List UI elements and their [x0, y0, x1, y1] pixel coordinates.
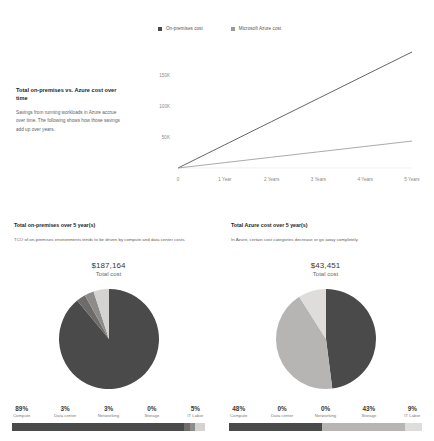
- legend-item-on-premises[interactable]: On-premises cost: [158, 26, 203, 31]
- on-premises-total-block: $187,164 Total cost: [14, 261, 203, 279]
- legend-label-azure: Microsoft Azure cost: [239, 26, 281, 31]
- azure-total-caption: Total cost: [231, 271, 420, 279]
- pie-slice[interactable]: [326, 289, 376, 389]
- category-percent: 9%: [391, 405, 434, 413]
- category-legend-item[interactable]: 0%Networking: [304, 405, 347, 419]
- azure-total-block: $43,451 Total cost: [231, 261, 420, 279]
- category-name: Storage: [130, 413, 173, 419]
- category-legend-item[interactable]: 43%Storage: [347, 405, 390, 419]
- line-series: [178, 141, 412, 168]
- category-name: Storage: [347, 413, 390, 419]
- azure-panel-title: Total Azure cost over 5 year(s): [231, 222, 420, 229]
- on-premises-pie-chart: [57, 287, 161, 391]
- x-axis-tick-label: 0: [177, 177, 180, 182]
- azure-category-bar: [229, 423, 422, 431]
- legend-swatch-icon: [158, 27, 162, 31]
- on-premises-category-legend: 89%Compute3%Data center3%Networking0%Sto…: [0, 405, 217, 419]
- x-axis-tick-label: 2 Years: [264, 177, 280, 182]
- category-percent: 43%: [347, 405, 390, 413]
- on-premises-panel: Total on-premises over 5 year(s) TCO of …: [0, 212, 217, 441]
- y-axis-tick-label: 100K: [159, 104, 171, 109]
- x-axis-tick-label: 5 Years: [404, 177, 420, 182]
- category-percent: 0%: [260, 405, 303, 413]
- line-chart-heading: Total on-premises vs. Azure cost over ti…: [16, 86, 120, 102]
- on-premises-pie-holder: [14, 287, 203, 391]
- category-name: Compute: [0, 413, 43, 419]
- x-axis-tick-label: 3 Years: [311, 177, 327, 182]
- category-name: Networking: [87, 413, 130, 419]
- category-bar-segment[interactable]: [195, 423, 205, 431]
- category-name: IT Labor: [391, 413, 434, 419]
- category-name: Data center: [43, 413, 86, 419]
- category-legend-item[interactable]: 3%Data center: [43, 405, 86, 419]
- category-name: IT Labor: [174, 413, 217, 419]
- legend-label-on-premises: On-premises cost: [166, 26, 203, 31]
- line-chart-plot: 50K100K150K01 Year2 Years3 Years4 Years5…: [130, 40, 420, 192]
- category-name: Networking: [304, 413, 347, 419]
- azure-total-amount: $43,451: [231, 261, 420, 271]
- category-bar-segment[interactable]: [12, 423, 184, 431]
- category-legend-item[interactable]: 0%Storage: [130, 405, 173, 419]
- on-premises-panel-title: Total on-premises over 5 year(s): [14, 222, 203, 229]
- x-axis-tick-label: 4 Years: [358, 177, 374, 182]
- legend-swatch-icon: [231, 27, 235, 31]
- category-legend-item[interactable]: 9%IT Labor: [391, 405, 434, 419]
- category-legend-item[interactable]: 89%Compute: [0, 405, 43, 419]
- category-bar-segment[interactable]: [322, 423, 405, 431]
- y-axis-tick-label: 50K: [162, 135, 171, 140]
- category-bar-segment[interactable]: [405, 423, 422, 431]
- line-chart-svg: 50K100K150K01 Year2 Years3 Years4 Years5…: [130, 40, 420, 192]
- category-legend-item[interactable]: 5%IT Labor: [174, 405, 217, 419]
- on-premises-category-bar: [12, 423, 205, 431]
- category-legend-item[interactable]: 3%Networking: [87, 405, 130, 419]
- line-chart-body-text: Savings from running workloads in Azure …: [16, 109, 120, 134]
- line-chart-section: On-premises cost Microsoft Azure cost To…: [0, 0, 434, 212]
- category-percent: 0%: [130, 405, 173, 413]
- category-percent: 3%: [43, 405, 86, 413]
- category-percent: 5%: [174, 405, 217, 413]
- category-percent: 89%: [0, 405, 43, 413]
- category-percent: 0%: [304, 405, 347, 413]
- on-premises-total-caption: Total cost: [14, 271, 203, 279]
- line-chart-legend: On-premises cost Microsoft Azure cost: [158, 26, 281, 31]
- category-legend-item[interactable]: 48%Compute: [217, 405, 260, 419]
- x-axis-tick-label: 1 Year: [218, 177, 231, 182]
- on-premises-total-amount: $187,164: [14, 261, 203, 271]
- on-premises-panel-subtitle: TCO of on-premises environments tends to…: [14, 236, 203, 243]
- category-percent: 48%: [217, 405, 260, 413]
- azure-pie-chart: [274, 287, 378, 391]
- azure-pie-holder: [231, 287, 420, 391]
- azure-category-legend: 48%Compute0%Data center0%Networking43%St…: [217, 405, 434, 419]
- azure-panel: Total Azure cost over 5 year(s) In Azure…: [217, 212, 434, 441]
- legend-item-azure[interactable]: Microsoft Azure cost: [231, 26, 281, 31]
- category-name: Data center: [260, 413, 303, 419]
- line-series: [178, 52, 412, 168]
- category-percent: 3%: [87, 405, 130, 413]
- category-legend-item[interactable]: 0%Data center: [260, 405, 303, 419]
- azure-panel-subtitle: In Azure, certain cost categories decrea…: [231, 236, 420, 243]
- y-axis-tick-label: 150K: [159, 73, 171, 78]
- category-bar-segment[interactable]: [229, 423, 322, 431]
- line-chart-description: Total on-premises vs. Azure cost over ti…: [16, 86, 120, 134]
- category-name: Compute: [217, 413, 260, 419]
- cost-breakdown-panels: Total on-premises over 5 year(s) TCO of …: [0, 212, 434, 441]
